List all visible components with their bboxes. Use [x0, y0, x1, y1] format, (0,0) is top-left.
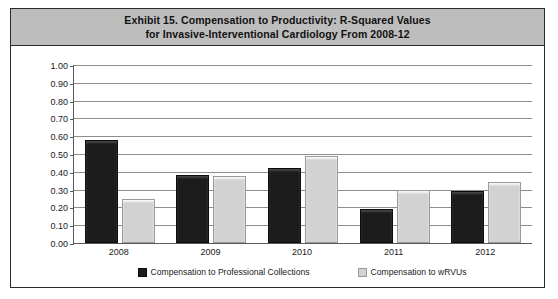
- bar-2012-series-2[interactable]: [488, 182, 521, 243]
- y-tick-label: 0.30: [50, 186, 68, 196]
- bar-2008-series-2[interactable]: [122, 199, 155, 244]
- bar-2011-series-2[interactable]: [397, 190, 430, 243]
- bar-2008-series-1[interactable]: [85, 140, 118, 243]
- bar-groups: [74, 65, 532, 243]
- bar-2009-series-1[interactable]: [176, 175, 209, 243]
- x-axis-label-2010: 2010: [256, 247, 348, 257]
- figure-frame: Exhibit 15. Compensation to Productivity…: [10, 8, 545, 288]
- bar-2009-series-2[interactable]: [213, 176, 246, 243]
- gridline: 0.00: [74, 243, 532, 244]
- bar-group-2012: [440, 65, 532, 243]
- x-axis-label-2008: 2008: [73, 247, 165, 257]
- legend-swatch-icon-1: [138, 268, 147, 277]
- y-tick-label: 0.60: [50, 132, 68, 142]
- x-axis-label-2009: 2009: [165, 247, 257, 257]
- bar-group-2011: [349, 65, 441, 243]
- y-tick-label: 0.10: [50, 221, 68, 231]
- bar-2011-series-1[interactable]: [360, 209, 393, 243]
- x-axis-label-2011: 2011: [348, 247, 440, 257]
- y-tick-label: 0.90: [50, 79, 68, 89]
- chart-body: 1.000.900.800.700.600.500.400.300.200.10…: [11, 47, 544, 287]
- chart-title-line-1: Exhibit 15. Compensation to Productivity…: [124, 13, 430, 27]
- legend-swatch-icon-2: [358, 268, 367, 277]
- y-tick-label: 0.40: [50, 168, 68, 178]
- chart-title-line-2: for Invasive-Interventional Cardiology F…: [145, 27, 409, 41]
- legend-item-2[interactable]: Compensation to wRVUs: [358, 267, 467, 277]
- bar-2010-series-1[interactable]: [268, 168, 301, 243]
- y-tick-label: 0.80: [50, 97, 68, 107]
- legend-label-1: Compensation to Professional Collections: [151, 267, 310, 277]
- plot-area: 1.000.900.800.700.600.500.400.300.200.10…: [73, 65, 532, 244]
- x-axis-label-2012: 2012: [439, 247, 531, 257]
- y-tick-label: 0.00: [50, 239, 68, 249]
- chart-legend: Compensation to Professional Collections…: [73, 267, 531, 277]
- bar-2012-series-1[interactable]: [451, 191, 484, 243]
- bar-2010-series-2[interactable]: [305, 156, 338, 243]
- bar-group-2010: [257, 65, 349, 243]
- x-axis-labels: 20082009201020112012: [73, 247, 531, 257]
- legend-item-1[interactable]: Compensation to Professional Collections: [138, 267, 310, 277]
- bar-group-2009: [166, 65, 258, 243]
- legend-label-2: Compensation to wRVUs: [371, 267, 467, 277]
- bar-group-2008: [74, 65, 166, 243]
- y-tick-label: 1.00: [50, 61, 68, 71]
- y-tick-label: 0.70: [50, 114, 68, 124]
- y-tick-label: 0.50: [50, 150, 68, 160]
- y-tick-mark: [70, 244, 74, 245]
- y-tick-label: 0.20: [50, 203, 68, 213]
- chart-title-band: Exhibit 15. Compensation to Productivity…: [11, 9, 544, 46]
